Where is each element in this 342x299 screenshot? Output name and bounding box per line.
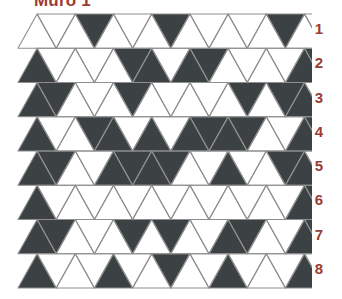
triangle-outline [171,83,209,117]
row-label-2: 2 [306,55,332,70]
filled-triangle [133,117,171,151]
triangle-outline [18,14,56,48]
filled-triangle [209,151,247,185]
triangle-outline [209,185,247,219]
triangle-outline [247,48,285,82]
filled-triangle [114,83,152,117]
filled-triangle [228,83,266,117]
triangle-outline [133,185,171,219]
filled-triangle [209,254,247,288]
triangle-outline [228,14,266,48]
filled-triangle [18,254,56,288]
triangle-outline [152,185,190,219]
filled-triangle [114,220,152,254]
triangle-outline [228,48,266,82]
row-label-column: 1 2 3 4 5 6 7 8 [306,0,342,299]
triangle-outline [37,14,75,48]
triangle-outline [114,14,152,48]
triangle-outline [56,254,94,288]
triangle-grid [0,0,312,299]
filled-triangle [152,254,190,288]
filled-triangle [75,14,113,48]
triangle-line-layer [18,14,312,288]
triangle-outline [114,185,152,219]
filled-triangle [152,220,190,254]
triangle-outline [56,185,94,219]
row-label-5: 5 [306,158,332,173]
triangle-outline [228,185,266,219]
triangle-outline [56,48,94,82]
triangle-outline [190,83,228,117]
triangle-outline [94,185,132,219]
row-label-7: 7 [306,227,332,242]
wall-pattern-page: Muro 1 1 2 3 4 5 6 7 8 [0,0,342,299]
filled-triangle [266,14,304,48]
triangle-outline [75,185,113,219]
triangle-outline [209,14,247,48]
triangle-outline [75,83,113,117]
triangle-grid-svg [0,0,312,299]
row-label-3: 3 [306,90,332,105]
filled-triangle [18,117,56,151]
triangle-outline [190,14,228,48]
triangle-outline [152,83,190,117]
filled-triangle [18,185,56,219]
filled-triangle [18,48,56,82]
row-label-8: 8 [306,261,332,276]
row-label-6: 6 [306,192,332,207]
triangle-outline [75,48,113,82]
triangle-outline [171,185,209,219]
filled-triangle [152,14,190,48]
filled-triangle [94,254,132,288]
triangle-outline [247,254,285,288]
triangle-outline [75,220,113,254]
row-label-4: 4 [306,124,332,139]
triangle-outline [190,185,228,219]
triangle-outline [247,185,285,219]
row-label-1: 1 [306,21,332,36]
